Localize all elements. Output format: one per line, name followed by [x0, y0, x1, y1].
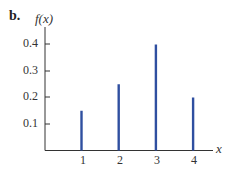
chart-plot — [0, 0, 235, 172]
axes — [45, 27, 213, 151]
bars — [82, 45, 194, 151]
